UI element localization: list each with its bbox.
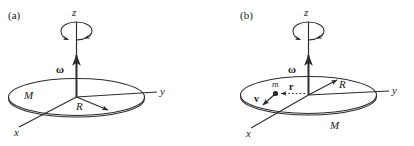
axis-label-y-b: y [392, 85, 397, 96]
axis-label-x-b: x [246, 128, 251, 139]
panel-a-label: (a) [8, 10, 20, 21]
omega-label-b: ω [288, 64, 296, 75]
axis-label-z-a: z [72, 7, 76, 18]
physics-figure: (a) z ω M R y x (b) z ω m v r R y M x [0, 0, 414, 146]
disk-rim-b [241, 98, 377, 115]
radius-label-b: R [339, 79, 346, 90]
velocity-label-b: v [254, 94, 259, 104]
mass-label-a: M [24, 90, 33, 101]
omega-label-a: ω [56, 64, 64, 75]
panel-b-graphics [241, 22, 390, 128]
x-axis-b [251, 95, 309, 128]
velocity-vector-b [263, 94, 276, 106]
panel-b-label: (b) [240, 10, 253, 21]
axis-label-x-a: x [14, 127, 19, 138]
mass-label-b: M [330, 120, 339, 131]
axis-label-z-b: z [304, 7, 308, 18]
position-label-b: r [289, 82, 293, 92]
point-mass-label-b: m [272, 80, 279, 89]
radius-label-a: R [76, 101, 83, 112]
axis-label-y-a: y [160, 86, 165, 97]
radius-arrow-b [309, 80, 338, 95]
